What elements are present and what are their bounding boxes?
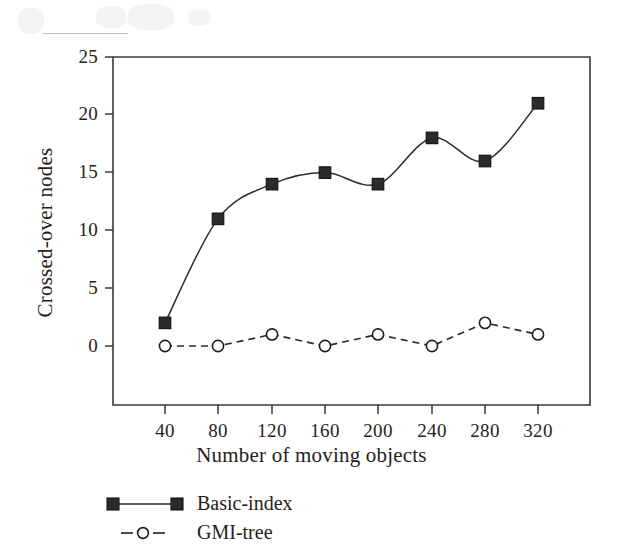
y-axis-ticks — [105, 57, 113, 346]
data-point-basic-index — [372, 178, 384, 190]
xtick-label-200: 200 — [348, 420, 408, 442]
data-point-basic-index — [212, 213, 224, 225]
data-point-gmi-tree — [479, 317, 490, 328]
data-point-gmi-tree — [266, 329, 277, 340]
series-markers-basic-index — [159, 97, 544, 328]
ytick-label-20: 20 — [54, 103, 98, 125]
y-axis-title: Crossed-over nodes — [33, 128, 58, 338]
ytick-label-25: 25 — [54, 46, 98, 68]
legend-key-basic-index — [103, 493, 187, 515]
data-point-gmi-tree — [212, 340, 223, 351]
ytick-label-15: 15 — [54, 161, 98, 183]
data-point-basic-index — [532, 97, 544, 109]
ytick-label-5: 5 — [54, 277, 98, 299]
data-point-gmi-tree — [532, 329, 543, 340]
data-point-basic-index — [159, 317, 171, 329]
legend-item-gmi-tree: GMI-tree — [103, 518, 423, 547]
x-axis-title: Number of moving objects — [0, 443, 623, 468]
plot-frame — [113, 57, 590, 405]
xtick-label-160: 160 — [295, 420, 355, 442]
data-point-gmi-tree — [372, 329, 383, 340]
xtick-label-320: 320 — [508, 420, 568, 442]
xtick-label-280: 280 — [455, 420, 515, 442]
chart-legend: Basic-index GMI-tree — [103, 489, 423, 547]
data-point-basic-index — [479, 155, 491, 167]
xtick-label-80: 80 — [188, 420, 248, 442]
legend-label-basic-index: Basic-index — [187, 492, 293, 515]
figure-container: 25 20 15 10 5 0 40 80 120 160 200 240 28… — [0, 0, 623, 555]
data-point-gmi-tree — [426, 340, 437, 351]
x-axis-ticks — [165, 405, 538, 414]
data-point-gmi-tree — [319, 340, 330, 351]
xtick-label-40: 40 — [135, 420, 195, 442]
xtick-label-240: 240 — [402, 420, 462, 442]
data-point-gmi-tree — [159, 340, 170, 351]
data-point-basic-index — [426, 132, 438, 144]
series-markers-gmi-tree — [159, 317, 543, 351]
ytick-label-10: 10 — [54, 219, 98, 241]
legend-item-basic-index: Basic-index — [103, 489, 423, 518]
data-point-basic-index — [266, 178, 278, 190]
ytick-label-0: 0 — [54, 335, 98, 357]
data-point-basic-index — [319, 167, 331, 179]
legend-key-gmi-tree — [103, 522, 187, 544]
xtick-label-120: 120 — [242, 420, 302, 442]
legend-label-gmi-tree: GMI-tree — [187, 521, 273, 544]
